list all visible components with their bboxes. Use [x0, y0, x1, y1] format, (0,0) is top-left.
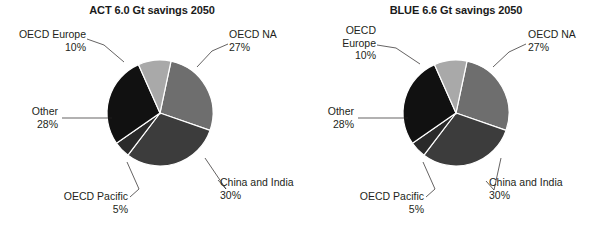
label-oecd-europe-pct-act: 10%: [8, 41, 86, 54]
label-china-india-name-act: China and India: [220, 176, 294, 188]
label-oecd-europe-name-act: OECD Europe: [19, 28, 86, 40]
label-oecd-pacific-act: OECD Pacific 5%: [48, 190, 128, 215]
label-china-india-pct-blue: 30%: [489, 189, 563, 202]
label-china-india-pct-act: 30%: [220, 189, 294, 202]
two-pie-chart-figure: ACT 6.0 Gt savings 2050: [0, 0, 608, 234]
label-other-name-act: Other: [32, 105, 58, 117]
chart-panel-blue: BLUE 6.6 Gt savings 2050 OECD Europe: [304, 0, 608, 234]
label-other-act: Other 28%: [0, 105, 58, 130]
pie-slices-blue: [403, 60, 509, 166]
label-oecd-pacific-pct-act: 5%: [48, 203, 128, 216]
label-china-india-act: China and India 30%: [220, 176, 294, 201]
leader-line-oecd-na-blue: [493, 44, 526, 67]
label-oecd-na-pct-act: 27%: [229, 41, 277, 54]
label-oecd-na-act: OECD NA 27%: [229, 28, 277, 53]
label-other-pct-blue: 28%: [304, 118, 354, 131]
pie-slices-act-accurate: [107, 60, 213, 166]
leader-line-oecd-europe-act: [87, 39, 124, 62]
label-oecd-pacific-blue: OECD Pacific 5%: [344, 190, 424, 215]
label-china-india-blue: China and India 30%: [489, 176, 563, 201]
label-china-india-name-blue: China and India: [489, 176, 563, 188]
label-oecd-na-pct-blue: 27%: [528, 41, 576, 54]
label-oecd-europe-pct-blue: 10%: [306, 49, 376, 62]
leader-line-oecd-europe-blue: [377, 45, 420, 64]
leader-line-oecd-pacific-blue: [423, 162, 435, 197]
label-other-name-blue: Other: [328, 105, 354, 117]
label-oecd-na-name-act: OECD NA: [229, 28, 277, 40]
label-oecd-europe-blue: OECD Europe 10%: [306, 24, 376, 62]
label-oecd-europe-act: OECD Europe 10%: [8, 28, 86, 53]
chart-panel-act: ACT 6.0 Gt savings 2050: [0, 0, 304, 234]
leader-line-oecd-na-act: [197, 44, 228, 67]
label-oecd-europe-name-line2-blue: Europe: [306, 37, 376, 50]
label-oecd-pacific-pct-blue: 5%: [344, 203, 424, 216]
label-oecd-europe-name-line1-blue: OECD: [346, 24, 376, 36]
label-oecd-pacific-name-act: OECD Pacific: [64, 190, 128, 202]
label-oecd-na-blue: OECD NA 27%: [528, 28, 576, 53]
label-oecd-pacific-name-blue: OECD Pacific: [360, 190, 424, 202]
label-other-blue: Other 28%: [304, 105, 354, 130]
label-other-pct-act: 28%: [0, 118, 58, 131]
leader-line-oecd-pacific-act: [127, 162, 139, 197]
label-oecd-na-name-blue: OECD NA: [528, 28, 576, 40]
